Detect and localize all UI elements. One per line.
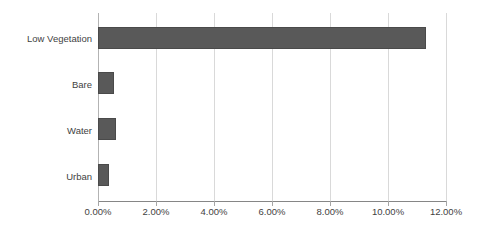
y-axis-label-low-vegetation: Low Vegetation [27,33,92,44]
bar-low-vegetation [98,27,426,49]
gridline-6 [446,13,447,201]
y-axis-label-urban: Urban [66,171,92,182]
y-axis-label-water: Water [67,125,92,136]
bar-chart: Low Vegetation Bare Water Urban 0.00% 2.… [0,0,484,238]
x-axis-tick-label-0: 0.00% [68,206,128,218]
x-axis-tick-label-4: 8.00% [300,206,360,218]
plot-area [98,13,446,201]
x-axis-tick-label-3: 6.00% [242,206,302,218]
x-axis-tick-label-1: 2.00% [126,206,186,218]
bar-urban [98,164,109,186]
x-axis-tick-label-6: 12.00% [416,206,476,218]
x-axis-tick-label-5: 10.00% [358,206,418,218]
x-axis-tick-label-2: 4.00% [184,206,244,218]
bar-water [98,118,116,140]
bar-bare [98,72,114,94]
y-axis-label-bare: Bare [72,79,92,90]
